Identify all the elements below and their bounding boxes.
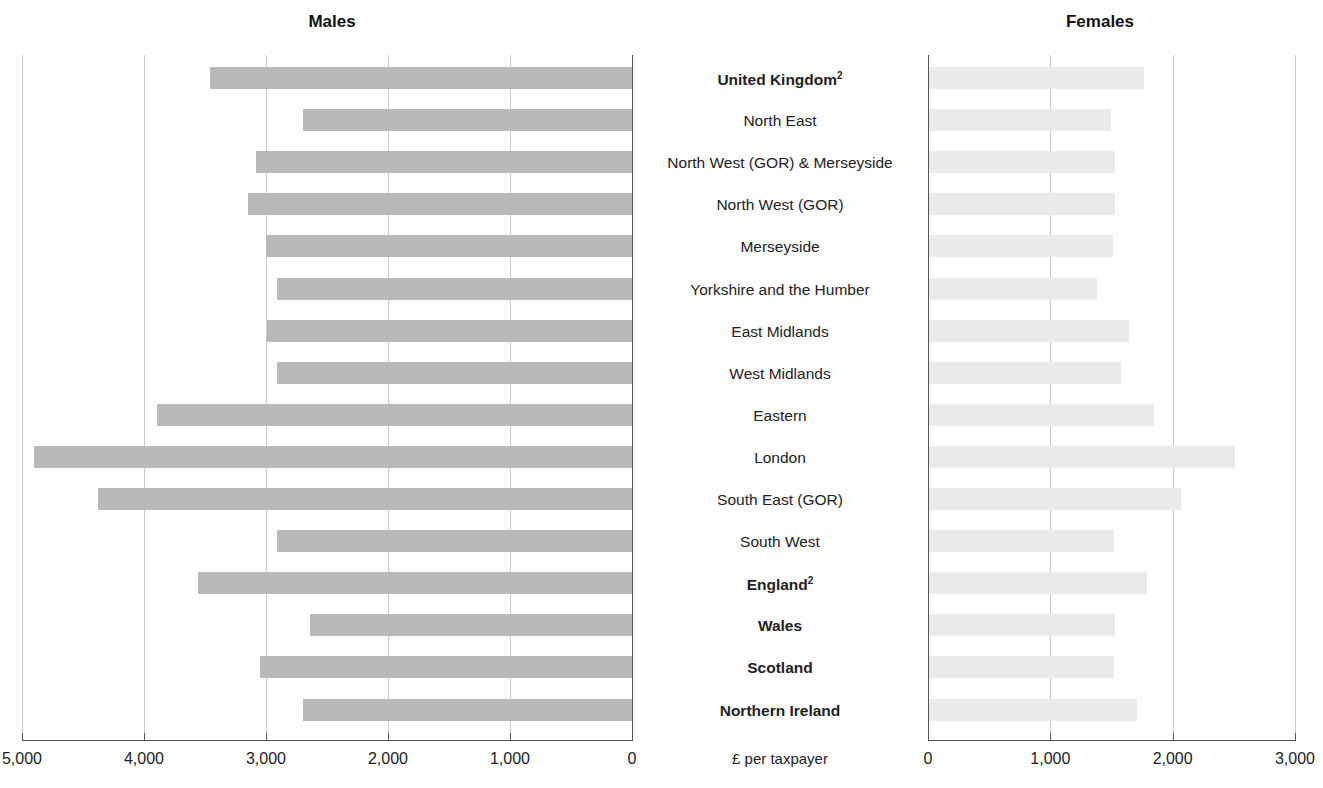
category-label: North West (GOR) & Merseyside (638, 155, 922, 171)
chart-males (22, 55, 632, 740)
bar-male (303, 109, 632, 131)
axis-tick-females-3000 (1295, 733, 1296, 741)
axis-baseline-males (22, 740, 633, 741)
bar-female (929, 193, 1115, 215)
category-label-text: South West (740, 533, 820, 550)
category-label: South East (GOR) (638, 492, 922, 508)
bar-male (267, 320, 632, 342)
category-label-text: Yorkshire and the Humber (690, 281, 870, 298)
bar-male (310, 614, 632, 636)
category-label: East Midlands (638, 324, 922, 340)
category-label-text: Scotland (747, 659, 812, 676)
gridline-females-3000 (1295, 55, 1296, 740)
axis-label-females-1000: 1,000 (1005, 750, 1095, 768)
axis-label-males-5000: 5,000 (0, 750, 67, 768)
bar-male (256, 151, 632, 173)
axis-unit-label: £ per taxpayer (638, 750, 922, 767)
category-label-text: North East (743, 112, 816, 129)
category-label-text: East Midlands (731, 323, 828, 340)
category-label-text: United Kingdom (717, 71, 837, 88)
category-label: Northern Ireland (638, 703, 922, 719)
bar-female (929, 530, 1114, 552)
category-label-text: Wales (758, 617, 802, 634)
axis-label-males-2000: 2,000 (343, 750, 433, 768)
bar-male (248, 193, 632, 215)
category-label: England2 (638, 576, 922, 593)
bar-male (303, 699, 632, 721)
category-label: Merseyside (638, 239, 922, 255)
gridline-males-5000 (22, 55, 23, 740)
axis-label-males-4000: 4,000 (99, 750, 189, 768)
category-label-footnote: 2 (837, 70, 843, 81)
category-label: North East (638, 113, 922, 129)
category-label: Eastern (638, 408, 922, 424)
axis-label-males-3000: 3,000 (221, 750, 311, 768)
bar-male (198, 572, 632, 594)
category-label: Wales (638, 618, 922, 634)
bar-female (929, 151, 1115, 173)
category-label: Scotland (638, 660, 922, 676)
category-label-text: England (747, 576, 808, 593)
bar-male (277, 530, 632, 552)
bar-female (929, 235, 1113, 257)
bar-male (266, 235, 632, 257)
gridline-females-2000 (1173, 55, 1174, 740)
axis-label-females-0: 0 (883, 750, 973, 768)
panel-title-females: Females (1000, 12, 1200, 32)
bar-female (929, 404, 1154, 426)
category-label: United Kingdom2 (638, 71, 922, 88)
axis-tick-males-0 (632, 733, 633, 741)
bar-female (929, 656, 1114, 678)
panel-title-males: Males (232, 12, 432, 32)
chart-females (928, 55, 1295, 740)
axis-label-males-1000: 1,000 (465, 750, 555, 768)
bar-male (98, 488, 632, 510)
category-label: Yorkshire and the Humber (638, 282, 922, 298)
axis-label-females-3000: 3,000 (1250, 750, 1323, 768)
bar-male (34, 446, 632, 468)
axis-label-females-2000: 2,000 (1128, 750, 1218, 768)
category-label: West Midlands (638, 366, 922, 382)
axis-tick-females-1000 (1050, 733, 1051, 741)
bar-female (929, 362, 1121, 384)
category-label: South West (638, 534, 922, 550)
axis-label-males-0: 0 (587, 750, 677, 768)
category-label-text: North West (GOR) (716, 196, 843, 213)
axis-tick-males-5000 (22, 733, 23, 741)
gridline-males-0 (632, 55, 633, 740)
category-label-text: West Midlands (729, 365, 830, 382)
category-label: North West (GOR) (638, 197, 922, 213)
category-label-text: Northern Ireland (720, 702, 841, 719)
bar-female (929, 614, 1115, 636)
axis-tick-males-3000 (266, 733, 267, 741)
bar-female (929, 446, 1235, 468)
category-label: London (638, 450, 922, 466)
bar-female (929, 67, 1144, 89)
bar-female (929, 278, 1097, 300)
bar-female (929, 109, 1111, 131)
bar-male (157, 404, 632, 426)
bar-male (277, 278, 632, 300)
category-label-text: Merseyside (740, 238, 819, 255)
category-label-footnote: 2 (808, 575, 814, 586)
axis-baseline-females (928, 740, 1296, 741)
axis-tick-males-2000 (388, 733, 389, 741)
axis-tick-females-2000 (1173, 733, 1174, 741)
bar-male (260, 656, 632, 678)
category-label-text: North West (GOR) & Merseyside (667, 154, 892, 171)
axis-tick-males-4000 (144, 733, 145, 741)
bar-male (210, 67, 632, 89)
bar-male (277, 362, 632, 384)
axis-tick-females-0 (928, 733, 929, 741)
bar-female (929, 320, 1129, 342)
bar-female (929, 488, 1181, 510)
category-label-text: South East (GOR) (717, 491, 843, 508)
axis-tick-males-1000 (510, 733, 511, 741)
category-label-text: Eastern (753, 407, 806, 424)
bar-female (929, 572, 1147, 594)
bar-female (929, 699, 1137, 721)
gridline-males-4000 (144, 55, 145, 740)
category-label-text: London (754, 449, 806, 466)
